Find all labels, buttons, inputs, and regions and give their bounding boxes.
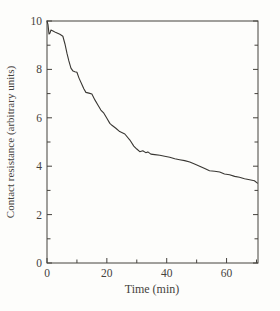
x-tick-label: 0 bbox=[44, 267, 50, 279]
y-axis-label: Contact resistance (arbitrary units) bbox=[4, 65, 17, 218]
y-tick-label: 2 bbox=[36, 209, 42, 221]
contact-resistance-figure: 02040600246810 Time (min) Contact resist… bbox=[0, 0, 280, 311]
y-tick-label: 10 bbox=[31, 15, 43, 27]
y-tick-label: 8 bbox=[36, 63, 42, 75]
x-axis-label: Time (min) bbox=[125, 282, 180, 296]
y-tick-label: 0 bbox=[36, 257, 42, 269]
figure-background bbox=[0, 0, 280, 311]
y-tick-label: 6 bbox=[36, 112, 42, 124]
y-tick-label: 4 bbox=[36, 160, 42, 172]
chart: 02040600246810 Time (min) Contact resist… bbox=[0, 0, 280, 311]
x-tick-label: 40 bbox=[161, 267, 173, 279]
x-tick-label: 60 bbox=[221, 267, 233, 279]
x-tick-label: 20 bbox=[101, 267, 113, 279]
